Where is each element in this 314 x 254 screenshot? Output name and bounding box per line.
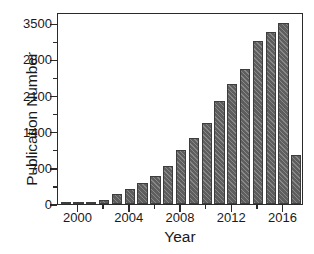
x-tick-minor-2002 [102,205,103,209]
bar-2016 [278,23,288,204]
x-tick-label-2000: 2000 [55,210,101,225]
bar-2010 [202,123,212,204]
bar-2000 [73,202,83,204]
y-tick-minor-1050 [53,150,57,151]
bar-2004 [125,189,135,204]
bar-2007 [163,166,173,204]
y-tick-label-2100: 2100 [23,89,52,104]
bar-2013 [240,69,250,204]
y-tick-label-2800: 2800 [23,52,52,67]
bar-2005 [137,183,147,204]
bar-2001 [86,202,96,204]
publication-number-bar-chart: Publication Number Year 0700140021002800… [0,0,314,254]
bar-2012 [227,84,237,204]
x-tick-minor-2014 [256,205,257,209]
y-tick-minor-1750 [53,114,57,115]
bar-2015 [266,32,276,204]
bar-2002 [99,200,109,204]
bar-2017 [291,155,301,204]
bar-2006 [150,176,160,204]
bar-2008 [176,150,186,204]
bar-2009 [189,138,199,204]
y-tick-minor-2450 [53,78,57,79]
y-tick-label-3500: 3500 [23,16,52,31]
x-tick-minor-2010 [205,205,206,209]
y-tick-minor-350 [53,186,57,187]
y-tick-label-0: 0 [45,197,52,212]
x-tick-label-2016: 2016 [260,210,306,225]
x-axis-title: Year [57,228,303,246]
y-tick-minor-3150 [53,42,57,43]
y-tick-label-1400: 1400 [23,125,52,140]
bar-2003 [112,194,122,204]
plot-area [57,13,303,205]
bar-2014 [253,41,263,204]
y-tick-label-700: 700 [30,161,52,176]
x-tick-label-2012: 2012 [208,210,254,225]
x-tick-label-2008: 2008 [157,210,203,225]
bar-2011 [214,101,224,204]
x-tick-label-2004: 2004 [106,210,152,225]
x-tick-minor-2006 [154,205,155,209]
bar-1999 [61,202,71,204]
